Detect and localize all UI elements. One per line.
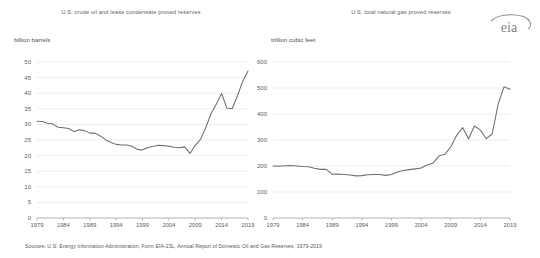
x-axis-tick-label: 1994 [355, 222, 368, 228]
y-axis-tick-label: 600 [247, 59, 267, 65]
y-axis-tick-label: 200 [247, 163, 267, 169]
x-axis-tick-label: 1984 [57, 222, 70, 228]
y-axis-unit-label-crude-oil: billion barrels [14, 36, 50, 43]
chart-svg-natural-gas [273, 62, 510, 218]
x-axis-tick-label: 2004 [415, 222, 428, 228]
y-axis-tick-label: 5 [11, 199, 31, 205]
data-series-line-crude-oil [37, 71, 248, 153]
y-axis-tick-label: 100 [247, 189, 267, 195]
x-axis-tick-label: 2019 [504, 222, 517, 228]
y-axis-tick-label: 400 [247, 111, 267, 117]
y-axis-tick-label: 0 [247, 215, 267, 221]
y-axis-tick-label: 45 [11, 75, 31, 81]
x-axis-tick-label: 2014 [215, 222, 228, 228]
figure-root: U.S. crude oil and lease condensate prov… [0, 0, 540, 258]
x-axis-tick-label: 1994 [110, 222, 123, 228]
y-axis-tick-label: 15 [11, 168, 31, 174]
plot-area-crude-oil [37, 62, 248, 218]
eia-logo-text: eia [501, 20, 518, 35]
y-axis-tick-label: 50 [11, 59, 31, 65]
x-axis-tick-label: 1979 [31, 222, 44, 228]
x-axis-tick-label: 1989 [83, 222, 96, 228]
y-axis-tick-label: 300 [247, 137, 267, 143]
y-axis-tick-label: 20 [11, 153, 31, 159]
eia-logo: eia [486, 10, 532, 36]
x-axis-tick-label: 2019 [242, 222, 255, 228]
x-axis-tick-label: 1984 [296, 222, 309, 228]
x-axis-tick-label: 1979 [267, 222, 280, 228]
source-footnote: Sources: U.S. Energy Information Adminis… [25, 243, 322, 249]
x-axis-tick-label: 1999 [385, 222, 398, 228]
y-axis-tick-label: 30 [11, 121, 31, 127]
data-series-line-natural-gas [273, 87, 510, 176]
x-axis-tick-label: 2004 [162, 222, 175, 228]
x-axis-tick-label: 2014 [474, 222, 487, 228]
plot-area-natural-gas [273, 62, 510, 218]
y-axis-tick-label: 35 [11, 106, 31, 112]
chart-svg-crude-oil [37, 62, 248, 218]
eia-logo-icon: eia [486, 10, 532, 36]
y-axis-tick-label: 40 [11, 90, 31, 96]
x-axis-tick-label: 1999 [136, 222, 149, 228]
chart-title-crude-oil: U.S. crude oil and lease condensate prov… [0, 9, 262, 15]
y-axis-unit-label-natural-gas: trillion cubic feet [271, 36, 315, 43]
chart-panel-crude-oil: U.S. crude oil and lease condensate prov… [0, 0, 262, 236]
y-axis-tick-label: 500 [247, 85, 267, 91]
y-axis-tick-label: 0 [11, 215, 31, 221]
y-axis-tick-label: 10 [11, 184, 31, 190]
x-axis-tick-label: 2009 [444, 222, 457, 228]
x-axis-tick-label: 2009 [189, 222, 202, 228]
x-axis-tick-label: 1989 [326, 222, 339, 228]
y-axis-tick-label: 25 [11, 137, 31, 143]
